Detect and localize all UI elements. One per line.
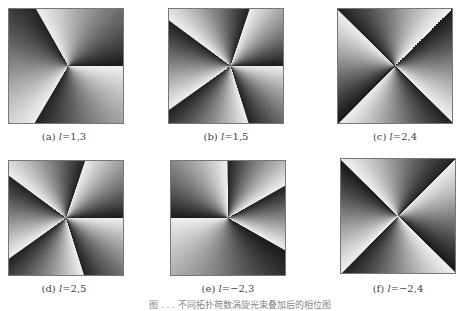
subcaption-a: (a) l=1,3 [0, 131, 139, 142]
figure-caption: 图 . . . 不同拓扑荷数涡旋光束叠加后的相位图 [80, 298, 400, 311]
phase-image-c [337, 8, 453, 124]
phase-image-b [168, 8, 284, 124]
phase-image-f [340, 158, 456, 274]
subcaption-e: (e) l=−2,3 [153, 283, 303, 294]
subcaption-b: (b) l=1,5 [151, 131, 301, 142]
subcaption-c: (c) l=2,4 [320, 131, 464, 142]
subcaption-f: (f) l=−2,4 [323, 283, 464, 294]
phase-image-e [170, 160, 286, 276]
subcaption-d: (d) l=2,5 [0, 283, 139, 294]
phase-image-d [8, 160, 124, 276]
phase-image-a [8, 8, 124, 124]
